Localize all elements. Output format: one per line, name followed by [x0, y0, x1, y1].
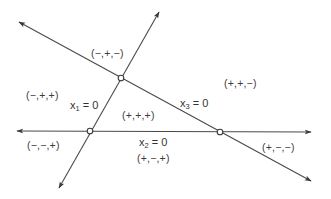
line-x2-equals-zero: [17, 131, 311, 132]
equation-label-x3: x3 = 0: [180, 98, 208, 111]
region-label-minus-minus-plus: (−,−,+): [27, 140, 60, 151]
equation-label-x1: x1 = 0: [70, 100, 98, 113]
region-label-minus-plus-minus: (−,+,−): [91, 48, 124, 59]
equation-rest: = 0: [190, 97, 209, 109]
vertex-x1-x3: [118, 75, 124, 81]
equation-rest: = 0: [149, 136, 168, 148]
region-label-minus-plus-plus: (−,+,+): [26, 90, 59, 101]
vertex-x1-x2: [87, 128, 93, 134]
equation-label-x2: x2 = 0: [139, 137, 167, 150]
region-label-plus-plus-plus: (+,+,+): [122, 110, 155, 121]
region-label-plus-minus-plus: (+,−,+): [137, 153, 170, 164]
region-label-plus-plus-minus: (+,+,−): [224, 78, 257, 89]
equation-rest: = 0: [80, 99, 99, 111]
vertex-x2-x3: [217, 129, 223, 135]
region-label-plus-minus-minus: (+,−,−): [262, 142, 295, 153]
